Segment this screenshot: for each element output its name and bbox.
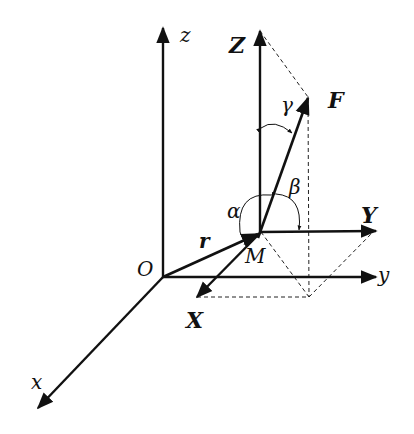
gamma-arc bbox=[261, 124, 292, 133]
z-axis-label: z bbox=[179, 23, 191, 47]
origin-label: O bbox=[137, 257, 153, 281]
dashed-f-to-projection bbox=[308, 99, 309, 297]
Y-component bbox=[260, 231, 376, 232]
Y-component-label: Y bbox=[361, 202, 379, 228]
position-vector-label: r bbox=[199, 229, 211, 253]
Z-component-label: Z bbox=[228, 32, 246, 58]
dashed-z-to-f bbox=[260, 31, 308, 97]
force-label: F bbox=[327, 87, 345, 113]
beta-label: β bbox=[288, 175, 301, 199]
gamma-label: γ bbox=[281, 93, 293, 117]
beta-arc bbox=[276, 194, 300, 230]
x-axis bbox=[38, 276, 164, 408]
dashed-projection-to-y bbox=[309, 232, 373, 297]
force-components bbox=[197, 31, 376, 297]
y-axis-label: y bbox=[377, 263, 390, 287]
force-direction-diagram: z y x O M r F Z Y X α β γ bbox=[0, 0, 414, 434]
global-axes bbox=[38, 28, 376, 408]
force-vector-F bbox=[258, 98, 308, 238]
dashed-m-to-projection bbox=[261, 232, 309, 297]
X-component-label: X bbox=[184, 307, 204, 333]
alpha-label: α bbox=[227, 199, 241, 223]
x-axis-label: x bbox=[31, 370, 42, 394]
point-M-label: M bbox=[244, 244, 266, 268]
